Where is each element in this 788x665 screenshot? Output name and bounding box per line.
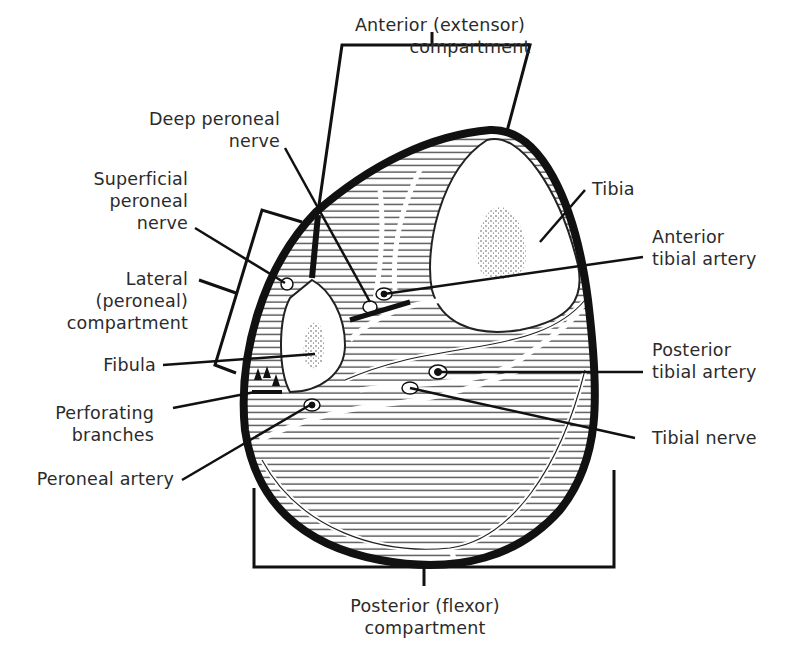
label-posterior-compartment: Posterior (flexor) compartment bbox=[300, 595, 550, 639]
label-superficial-peroneal-nerve-line1: Superficial bbox=[60, 168, 188, 190]
label-perforating-branches: Perforating branches bbox=[30, 402, 154, 446]
label-perforating-branches-line1: Perforating bbox=[30, 402, 154, 424]
label-lateral-compartment-line2: (peroneal) bbox=[40, 290, 188, 312]
label-deep-peroneal-nerve-line2: nerve bbox=[100, 130, 280, 152]
label-anterior-compartment-line1: Anterior (extensor) bbox=[320, 14, 560, 36]
label-deep-peroneal-nerve-line1: Deep peroneal bbox=[100, 108, 280, 130]
label-peroneal-artery-line1: Peroneal artery bbox=[0, 468, 174, 490]
label-posterior-compartment-line2: compartment bbox=[300, 617, 550, 639]
label-anterior-tibial-artery-line2: tibial artery bbox=[652, 248, 757, 270]
label-anterior-compartment: Anterior (extensor) compartment bbox=[320, 14, 560, 58]
label-anterior-compartment-line2: compartment bbox=[320, 36, 560, 58]
label-peroneal-artery: Peroneal artery bbox=[0, 468, 174, 490]
label-tibial-nerve-line1: Tibial nerve bbox=[652, 427, 757, 449]
label-tibia-line1: Tibia bbox=[592, 178, 635, 200]
label-perforating-branches-line2: branches bbox=[30, 424, 154, 446]
label-posterior-tibial-artery-line1: Posterior bbox=[652, 339, 757, 361]
label-tibia: Tibia bbox=[592, 178, 635, 200]
label-tibial-nerve: Tibial nerve bbox=[652, 427, 757, 449]
label-deep-peroneal-nerve: Deep peroneal nerve bbox=[100, 108, 280, 152]
label-lateral-compartment-line1: Lateral bbox=[40, 268, 188, 290]
label-fibula-line1: Fibula bbox=[60, 354, 156, 376]
label-superficial-peroneal-nerve-line2: peroneal bbox=[60, 190, 188, 212]
label-posterior-compartment-line1: Posterior (flexor) bbox=[300, 595, 550, 617]
label-anterior-tibial-artery: Anterior tibial artery bbox=[652, 226, 757, 270]
label-superficial-peroneal-nerve-line3: nerve bbox=[60, 212, 188, 234]
label-posterior-tibial-artery-line2: tibial artery bbox=[652, 361, 757, 383]
label-lateral-compartment-line3: compartment bbox=[40, 312, 188, 334]
label-superficial-peroneal-nerve: Superficial peroneal nerve bbox=[60, 168, 188, 234]
label-posterior-tibial-artery: Posterior tibial artery bbox=[652, 339, 757, 383]
label-anterior-tibial-artery-line1: Anterior bbox=[652, 226, 757, 248]
label-fibula: Fibula bbox=[60, 354, 156, 376]
label-lateral-compartment: Lateral (peroneal) compartment bbox=[40, 268, 188, 334]
